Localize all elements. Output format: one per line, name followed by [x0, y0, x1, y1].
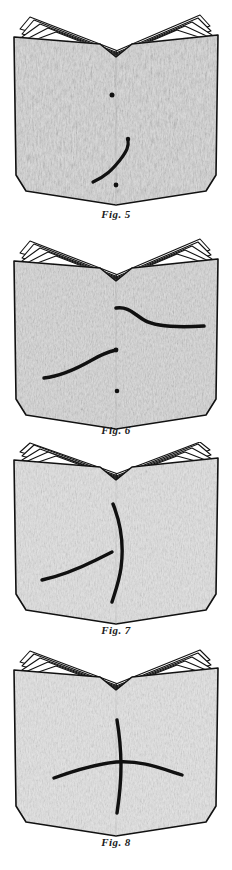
- figure-5: [0, 4, 232, 216]
- lower-dot: [115, 389, 120, 394]
- figure-5-drawing: [0, 4, 232, 216]
- figure-8-caption: Fig. 8: [0, 836, 232, 848]
- figure-7-caption: Fig. 7: [0, 624, 232, 636]
- figure-7: [0, 442, 232, 638]
- page-spread: [0, 442, 232, 638]
- figure-6-drawing: [0, 228, 232, 440]
- figure-6: [0, 228, 232, 440]
- figure-6-caption: Fig. 6: [0, 424, 232, 436]
- lower-dot: [114, 183, 119, 188]
- figure-7-drawing: [0, 442, 232, 638]
- page-spread: [0, 648, 232, 850]
- figure-8: [0, 648, 232, 850]
- figure-5-caption: Fig. 5: [0, 208, 232, 220]
- illustration-plate: Fig. 5: [0, 0, 232, 870]
- upper-dot: [110, 93, 115, 98]
- figure-8-drawing: [0, 648, 232, 850]
